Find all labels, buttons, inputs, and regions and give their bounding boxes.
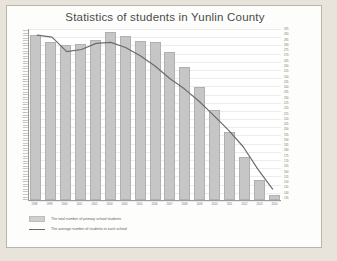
legend-item-average: The average number of students in each s… xyxy=(29,224,299,234)
y-axis-tick-right: 135 xyxy=(284,198,288,201)
bar xyxy=(105,32,116,200)
bar xyxy=(194,87,205,200)
y-axis-tick-right: 295 xyxy=(284,29,288,32)
y-axis-tick-right: 180 xyxy=(284,150,288,153)
legend-swatch-line xyxy=(29,229,45,230)
y-axis-tick-right: 200 xyxy=(284,129,288,132)
y-axis-tick-right: 150 xyxy=(284,182,288,185)
gridline xyxy=(29,201,281,202)
x-axis-tick: 2005 xyxy=(134,203,145,206)
bar xyxy=(30,35,41,200)
y-axis-tick-right: 205 xyxy=(284,124,288,127)
legend-label-total: The total number of primary school stude… xyxy=(51,217,121,221)
y-axis-tick-right: 255 xyxy=(284,71,288,74)
y-axis-tick-right: 275 xyxy=(284,50,288,53)
y-axis-tick-right: 195 xyxy=(284,135,288,138)
bar xyxy=(254,180,265,200)
bar xyxy=(90,40,101,200)
x-axis: 1998199920002001200220032004200520062007… xyxy=(28,203,281,206)
x-axis-tick: 2008 xyxy=(179,203,190,206)
y-axis-tick-right: 185 xyxy=(284,145,288,148)
y-axis-tick-right: 225 xyxy=(284,103,288,106)
y-axis-tick-right: 230 xyxy=(284,98,288,101)
chart-frame: Statistics of students in Yunlin County … xyxy=(6,5,322,248)
x-axis-tick: 2014 xyxy=(269,203,280,206)
bar xyxy=(120,36,131,200)
x-axis-tick: 2007 xyxy=(164,203,175,206)
y-axis-tick-right: 170 xyxy=(284,161,288,164)
x-axis-tick: 1998 xyxy=(29,203,40,206)
y-axis-tick-right: 280 xyxy=(284,45,288,48)
bar xyxy=(164,52,175,200)
y-axis-tick-right: 245 xyxy=(284,82,288,85)
x-axis-tick: 2000 xyxy=(59,203,70,206)
x-axis-tick: 2010 xyxy=(209,203,220,206)
bar xyxy=(60,45,71,200)
bar-series xyxy=(29,29,281,200)
x-axis-tick: 2001 xyxy=(74,203,85,206)
y-axis-tick-right: 175 xyxy=(284,156,288,159)
legend-label-average: The average number of students in each s… xyxy=(51,227,127,231)
y-axis-tick-right: 285 xyxy=(284,40,288,43)
y-axis-tick-right: 290 xyxy=(284,34,288,37)
bar xyxy=(45,42,56,200)
bar xyxy=(179,67,190,200)
y-axis-tick-right: 155 xyxy=(284,177,288,180)
y-axis-tick-right: 190 xyxy=(284,140,288,143)
bar xyxy=(150,42,161,200)
legend-swatch-bar xyxy=(29,216,45,222)
chart-legend: The total number of primary school stude… xyxy=(29,214,299,234)
screenshot-root: Statistics of students in Yunlin County … xyxy=(0,0,337,261)
x-axis-tick: 2006 xyxy=(149,203,160,206)
legend-item-total: The total number of primary school stude… xyxy=(29,214,299,224)
x-axis-tick: 2009 xyxy=(194,203,205,206)
plot-area xyxy=(28,29,281,201)
y-axis-tick-right: 165 xyxy=(284,166,288,169)
y-axis-tick-right: 145 xyxy=(284,187,288,190)
bar xyxy=(75,44,86,200)
y-axis-tick-right: 220 xyxy=(284,108,288,111)
bar xyxy=(269,195,280,200)
y-axis-tick-right: 160 xyxy=(284,172,288,175)
bar xyxy=(209,110,220,200)
x-axis-tick: 2011 xyxy=(224,203,235,206)
x-axis-tick: 2004 xyxy=(119,203,130,206)
chart-title: Statistics of students in Yunlin County xyxy=(7,11,323,23)
bar xyxy=(239,157,250,200)
y-axis-tick-right: 260 xyxy=(284,66,288,69)
right-y-axis: 2952902852802752702652602552502452402352… xyxy=(284,29,308,201)
y-axis-tick-right: 210 xyxy=(284,119,288,122)
bar xyxy=(224,132,235,200)
y-axis-tick-right: 235 xyxy=(284,92,288,95)
x-axis-tick: 2012 xyxy=(239,203,250,206)
bar xyxy=(135,41,146,200)
x-axis-tick: 2003 xyxy=(104,203,115,206)
y-axis-tick-right: 140 xyxy=(284,193,288,196)
y-axis-tick-right: 265 xyxy=(284,61,288,64)
y-axis-tick-right: 240 xyxy=(284,87,288,90)
y-axis-tick-right: 215 xyxy=(284,114,288,117)
left-y-axis: 9800097500970009650096000955009500094500… xyxy=(9,29,28,201)
x-axis-tick: 2002 xyxy=(89,203,100,206)
x-axis-tick: 1999 xyxy=(44,203,55,206)
x-axis-tick: 2013 xyxy=(254,203,265,206)
y-axis-tick-right: 270 xyxy=(284,55,288,58)
y-axis-tick-right: 250 xyxy=(284,77,288,80)
